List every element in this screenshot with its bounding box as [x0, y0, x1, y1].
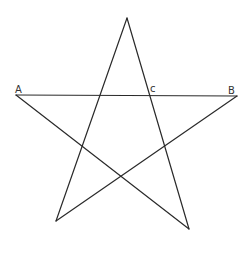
edge-A-B [16, 95, 237, 96]
pentagram-diagram: A c B [0, 0, 251, 255]
edge-top-bottom_left [56, 18, 127, 221]
edge-A-bottom_right [16, 95, 189, 229]
label-b: B [228, 85, 235, 96]
star-edges [16, 18, 237, 229]
edge-top-bottom_right [127, 18, 189, 229]
vertex-labels: A c B [15, 83, 235, 96]
edge-B-bottom_left [56, 96, 237, 221]
label-a: A [15, 84, 22, 95]
label-c: c [150, 83, 156, 94]
